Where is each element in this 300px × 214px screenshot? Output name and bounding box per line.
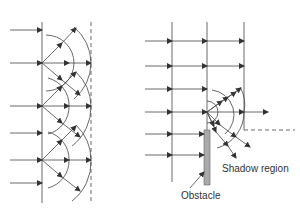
huygens-panel [10, 22, 91, 203]
incident-arrows [10, 30, 42, 183]
obstacle-pointer [190, 172, 204, 188]
obstacle-label: Obstacle [181, 190, 221, 201]
wavelet-source-3 [42, 125, 91, 201]
shadow-region-label: Shadow region [222, 163, 289, 174]
wavelet-source-1 [42, 27, 91, 99]
diffraction-diagram: Shadow region Obstacle [0, 0, 300, 214]
diffraction-wavelets [207, 87, 250, 158]
obstacle [204, 130, 210, 185]
